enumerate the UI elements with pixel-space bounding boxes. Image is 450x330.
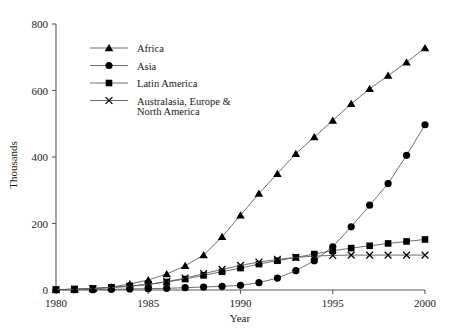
marker-circle — [274, 274, 281, 281]
marker-square — [403, 238, 410, 245]
legend-label: Asia — [137, 61, 157, 72]
marker-circle — [218, 283, 225, 290]
marker-triangle — [365, 85, 374, 92]
x-axis-title: Year — [230, 312, 251, 324]
legend-label-line2: North America — [137, 106, 200, 117]
x-tick-label: 1985 — [137, 297, 160, 309]
chart-legend: AfricaAsiaLatin AmericaAustralasia, Euro… — [90, 43, 231, 117]
marker-circle — [421, 121, 428, 128]
marker-square — [106, 80, 113, 87]
marker-square — [274, 257, 281, 264]
chart-page: 0200400600800 19801985199019952000 Afric… — [0, 0, 450, 330]
marker-triangle — [384, 72, 393, 79]
marker-circle — [105, 62, 112, 69]
line-chart: 0200400600800 19801985199019952000 Afric… — [0, 0, 450, 330]
marker-circle — [385, 180, 392, 187]
y-axis-ticks: 0200400600800 — [32, 18, 57, 296]
marker-triangle — [181, 262, 190, 269]
legend-item-australasia: Australasia, Europe &North America — [90, 96, 231, 117]
y-axis-title: Thousands — [7, 141, 19, 189]
y-tick-label: 0 — [43, 284, 49, 296]
marker-square — [385, 240, 392, 247]
marker-circle — [182, 284, 189, 291]
y-tick-label: 200 — [32, 218, 49, 230]
marker-circle — [200, 283, 207, 290]
marker-circle — [163, 285, 170, 292]
marker-triangle — [402, 58, 411, 65]
marker-circle — [366, 202, 373, 209]
marker-circle — [292, 267, 299, 274]
y-tick-label: 400 — [32, 151, 49, 163]
x-tick-label: 1980 — [45, 297, 68, 309]
marker-triangle — [162, 270, 171, 277]
x-tick-label: 2000 — [414, 297, 437, 309]
legend-item-latin: Latin America — [90, 78, 198, 89]
marker-square — [366, 242, 373, 249]
y-tick-label: 800 — [32, 18, 49, 30]
marker-square — [422, 236, 429, 243]
marker-square — [182, 276, 189, 283]
marker-circle — [237, 282, 244, 289]
legend-item-asia: Asia — [90, 61, 157, 72]
x-tick-label: 1995 — [322, 297, 345, 309]
marker-circle — [403, 152, 410, 159]
marker-circle — [348, 223, 355, 230]
x-tick-label: 1990 — [230, 297, 253, 309]
legend-label: Africa — [137, 43, 164, 54]
legend-item-africa: Africa — [90, 43, 164, 54]
marker-circle — [255, 279, 262, 286]
y-tick-label: 600 — [32, 85, 49, 97]
marker-triangle — [421, 44, 430, 51]
marker-square — [348, 245, 355, 252]
legend-label: Latin America — [137, 78, 198, 89]
x-axis-ticks: 19801985199019952000 — [45, 290, 437, 309]
